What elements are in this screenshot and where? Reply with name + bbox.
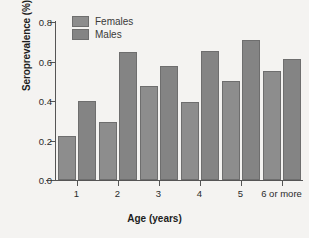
bar-males-2 — [119, 52, 137, 180]
y-tick-label: 0.4 — [39, 96, 52, 107]
bar-males-3 — [160, 66, 178, 180]
x-tick-label: 2 — [115, 188, 120, 199]
x-tick-mark — [159, 181, 160, 186]
bar-males-5 — [242, 40, 260, 180]
y-tick-label: 0.0 — [39, 175, 52, 186]
bar-females-5 — [222, 81, 240, 180]
legend-swatch-females — [72, 16, 89, 27]
legend-item-females: Females — [72, 15, 133, 27]
x-axis-ticks: 123456 or more — [56, 181, 302, 211]
bar-females-1 — [58, 136, 76, 180]
x-axis-title: Age (years) — [0, 213, 309, 224]
x-tick-label: 3 — [156, 188, 161, 199]
y-axis-title: Seroprevalence (%) — [21, 0, 32, 126]
chart-legend: FemalesMales — [72, 15, 133, 40]
bar-females-2 — [99, 122, 117, 180]
bar-females-3 — [140, 86, 158, 180]
x-tick-mark — [282, 181, 283, 186]
plot-area: 0.00.20.40.60.8 — [56, 22, 302, 180]
x-tick-mark — [241, 181, 242, 186]
y-tick-label: 0.8 — [39, 17, 52, 28]
legend-label: Females — [95, 16, 133, 27]
bar-males-1 — [78, 101, 96, 180]
x-tick-label: 1 — [74, 188, 79, 199]
legend-swatch-males — [72, 29, 89, 40]
x-tick-mark — [118, 181, 119, 186]
bar-males-4 — [201, 51, 219, 180]
y-tick-label: 0.6 — [39, 56, 52, 67]
bar-males-6 — [283, 59, 301, 180]
x-tick-mark — [77, 181, 78, 186]
chart-container: Seroprevalence (%) 0.00.20.40.60.8 12345… — [0, 0, 309, 238]
bar-females-6 — [263, 71, 281, 180]
y-tick-label: 0.2 — [39, 135, 52, 146]
x-tick-label: 5 — [238, 188, 243, 199]
x-tick-label: 6 or more — [261, 188, 302, 199]
legend-label: Males — [95, 29, 122, 40]
legend-item-males: Males — [72, 28, 133, 40]
x-tick-label: 4 — [197, 188, 202, 199]
x-tick-mark — [200, 181, 201, 186]
bar-females-4 — [181, 102, 199, 180]
